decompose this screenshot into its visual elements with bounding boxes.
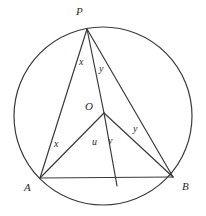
angle-label-x-at-p: x [79, 57, 83, 67]
angle-label-u-at-o: u [92, 137, 97, 147]
point-label-O: O [85, 101, 93, 112]
point-label-P: P [76, 6, 83, 17]
angle-label-v-at-o: v [108, 136, 112, 146]
angle-label-x-at-a: x [54, 139, 58, 149]
geometry-figure: P O A B x y x u v y [0, 0, 206, 216]
segment-OB [104, 113, 173, 177]
segment-AB [40, 177, 173, 178]
segment-PA [40, 29, 87, 178]
angle-label-y-at-p: y [99, 64, 103, 74]
angle-label-y-at-b: y [133, 124, 137, 134]
segment-PB [87, 29, 173, 177]
point-label-A: A [24, 182, 31, 193]
point-label-B: B [182, 181, 189, 192]
segments-group [40, 29, 173, 186]
